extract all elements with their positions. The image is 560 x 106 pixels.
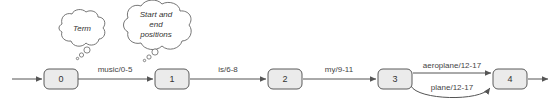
state-node-4[interactable]: 4 xyxy=(493,69,527,89)
callout-positions-line-2: end xyxy=(149,20,163,29)
edge-label-music: music/0-5 xyxy=(98,65,133,74)
callout-positions-dot-large xyxy=(152,49,158,55)
state-node-1[interactable]: 1 xyxy=(155,69,189,89)
edge-label-plane: plane/12-17 xyxy=(431,83,474,92)
state-4-label: 4 xyxy=(507,74,512,84)
annotations-layer: Term Start and end positions xyxy=(59,0,191,62)
callout-positions-line-3: positions xyxy=(139,30,172,39)
callout-positions-dot-small xyxy=(143,59,145,61)
callout-term-dot-large xyxy=(84,47,90,53)
callout-term-dot-small xyxy=(76,57,78,59)
edge-label-is: is/6-8 xyxy=(218,65,238,74)
callout-term-text: Term xyxy=(73,24,91,33)
state-node-2[interactable]: 2 xyxy=(268,69,302,89)
state-node-0[interactable]: 0 xyxy=(44,69,78,89)
callout-positions: Start and end positions xyxy=(124,0,192,62)
fsa-diagram-canvas: music/0-5 is/6-8 my/9-11 aeroplane/12-17… xyxy=(0,0,560,106)
state-2-label: 2 xyxy=(282,74,287,84)
callout-term: Term xyxy=(59,10,105,60)
callout-term-dot-medium xyxy=(79,53,83,57)
state-node-3[interactable]: 3 xyxy=(378,69,412,89)
state-0-label: 0 xyxy=(58,74,63,84)
edge-label-my: my/9-11 xyxy=(325,65,354,74)
callout-positions-line-1: Start and xyxy=(140,10,173,19)
state-1-label: 1 xyxy=(169,74,174,84)
edge-label-aeroplane: aeroplane/12-17 xyxy=(423,61,482,70)
fsa-diagram-svg: music/0-5 is/6-8 my/9-11 aeroplane/12-17… xyxy=(0,0,560,106)
state-3-label: 3 xyxy=(392,74,397,84)
callout-positions-dot-medium xyxy=(147,55,151,59)
